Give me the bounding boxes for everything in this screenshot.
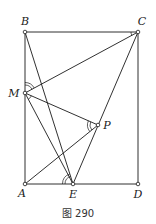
angle-mark-C-BM: [131, 32, 132, 35]
label-P: P: [102, 119, 111, 132]
point-D: [136, 182, 140, 186]
angle-mark-P-MA: [88, 121, 90, 132]
angle-mark-M-PE: [28, 96, 31, 99]
label-E: E: [68, 188, 77, 201]
point-B: [23, 30, 27, 34]
label-A: A: [17, 187, 26, 200]
label-B: B: [20, 15, 29, 28]
segment-BE: [25, 32, 73, 184]
point-C: [136, 30, 140, 34]
segments-layer: [25, 32, 138, 184]
label-C: C: [138, 15, 147, 28]
segment-CE: [73, 32, 138, 184]
point-P: [96, 123, 100, 127]
segment-MC: [25, 32, 138, 93]
figure-caption: 图 290: [62, 208, 94, 219]
label-M: M: [7, 87, 20, 100]
angle-marks-layer: [25, 32, 132, 184]
point-M: [23, 91, 27, 95]
point-E: [71, 182, 75, 186]
points-layer: [23, 30, 140, 186]
angle-mark-P-MA: [90, 122, 92, 130]
segment-AP: [25, 125, 98, 184]
label-D: D: [133, 188, 143, 201]
geometry-figure: ABCDEMP 图 290: [0, 0, 156, 224]
angle-mark-M-BC: [25, 85, 32, 89]
point-A: [23, 182, 27, 186]
segment-MP: [25, 93, 98, 125]
